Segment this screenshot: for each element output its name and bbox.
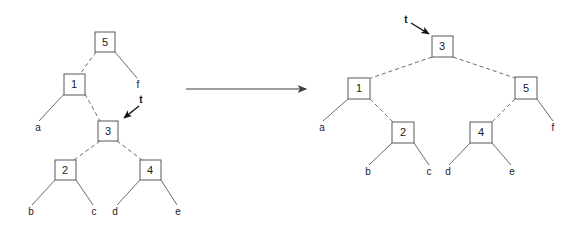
edge-left-4-to-e (161, 180, 177, 205)
node-label-right-2: 2 (400, 126, 406, 138)
node-label-left-5: 5 (102, 36, 108, 48)
leaf-label-right-b: b (365, 166, 371, 177)
pointer-label-left-t: t (139, 94, 143, 105)
tree-transformation-figure: 5 1 3 2 4 a f b c d e t (0, 0, 581, 229)
edge-right-4-to-d (449, 143, 470, 165)
edge-right-1-to-2 (370, 99, 393, 122)
edge-right-3-to-1 (371, 57, 432, 78)
leaf-label-left-f: f (137, 79, 140, 90)
node-label-left-2: 2 (62, 164, 68, 176)
leaf-label-left-c: c (92, 206, 97, 217)
node-label-right-4: 4 (478, 126, 484, 138)
edge-left-3-to-2 (74, 141, 100, 160)
leaf-label-right-e: e (509, 166, 515, 177)
leaf-label-left-a: a (35, 122, 41, 133)
edge-left-1-to-a (39, 94, 64, 121)
edge-left-2-to-b (32, 180, 55, 205)
edge-right-5-to-4 (492, 99, 515, 122)
leaf-label-right-d: d (445, 166, 451, 177)
pointer-label-right-t: t (404, 14, 408, 25)
edge-left-4-to-d (117, 180, 140, 205)
node-label-right-1: 1 (356, 82, 362, 94)
edge-left-2-to-c (76, 180, 93, 205)
left-tree-group: 5 1 3 2 4 a f b c d e t (28, 32, 181, 217)
node-label-left-4: 4 (147, 164, 153, 176)
node-label-left-1: 1 (71, 78, 77, 90)
edge-left-5-to-f (115, 52, 137, 78)
pointer-arrow-right-t (411, 23, 429, 34)
leaf-label-right-f: f (552, 122, 555, 133)
edge-right-2-to-b (369, 143, 392, 165)
node-label-right-3: 3 (439, 40, 445, 52)
leaf-label-left-b: b (28, 206, 34, 217)
edge-right-1-to-a (323, 99, 348, 121)
edge-right-4-to-e (492, 143, 511, 165)
diagram-canvas: 5 1 3 2 4 a f b c d e t (0, 0, 581, 229)
pointer-arrow-left-t (124, 106, 139, 118)
edge-right-2-to-c (414, 143, 429, 165)
leaf-label-right-c: c (427, 166, 432, 177)
edge-left-3-to-4 (117, 141, 142, 160)
edge-right-5-to-f (537, 99, 553, 121)
node-label-left-3: 3 (105, 125, 111, 137)
leaf-label-left-d: d (112, 206, 118, 217)
right-tree-group: 3 1 5 2 4 a f b c d e t (319, 14, 554, 177)
leaf-label-left-e: e (175, 206, 181, 217)
edge-right-3-to-5 (453, 57, 515, 78)
node-label-right-5: 5 (523, 82, 529, 94)
leaf-label-right-a: a (319, 122, 325, 133)
edge-left-1-to-3 (85, 94, 100, 121)
edge-left-5-to-1 (80, 52, 96, 74)
